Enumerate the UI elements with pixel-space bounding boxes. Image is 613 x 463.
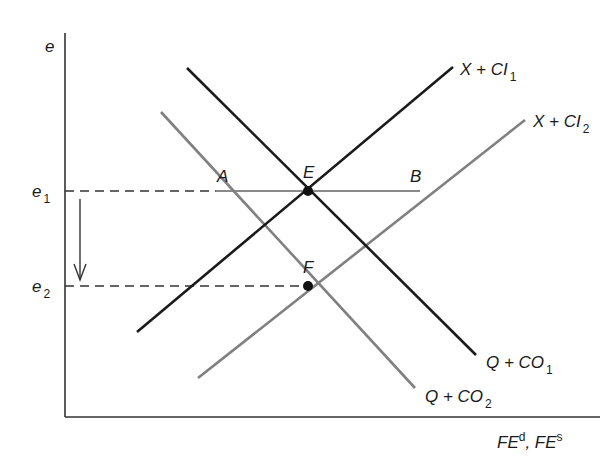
point-e-label: E — [303, 163, 315, 182]
demand-curve-1-label: Q + CO1 — [486, 353, 553, 377]
down-arrow-icon — [74, 199, 86, 280]
point-b-label: B — [410, 167, 421, 186]
supply-curve-1-label: X + CI1 — [459, 60, 517, 84]
point-f-label: F — [303, 258, 315, 277]
point-f-marker — [303, 281, 313, 291]
e1-label: e1 — [32, 182, 50, 206]
demand-curve-2 — [161, 112, 415, 388]
point-e-marker — [303, 186, 313, 196]
supply-curve-1 — [137, 67, 453, 332]
demand-curve-2-label: Q + CO2 — [425, 387, 492, 411]
supply-curve-2 — [198, 120, 525, 378]
x-axis-label: FEd, FEs — [497, 430, 563, 452]
supply-curve-2-label: X + CI2 — [532, 112, 590, 136]
y-axis-label: e — [45, 37, 54, 56]
diagram-canvas: e FEd, FEs e1 e2 X + CI1 X + CI2 Q + CO1… — [0, 0, 613, 463]
point-a-label: A — [216, 167, 228, 186]
e2-label: e2 — [32, 277, 50, 301]
demand-curve-1 — [187, 68, 476, 355]
